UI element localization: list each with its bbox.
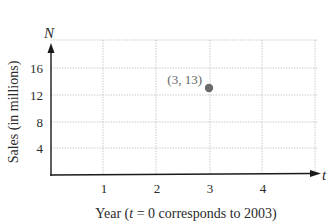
x-tick: 4 — [260, 181, 267, 196]
y-tick: 8 — [37, 115, 44, 130]
point-annotation: (3, 13) — [167, 72, 202, 87]
y-tick: 12 — [30, 88, 43, 103]
x-tick-labels: 1 2 3 4 — [101, 181, 267, 196]
x-axis-variable: t — [322, 167, 327, 183]
x-tick: 1 — [101, 181, 108, 196]
chart-canvas: N t 16 12 8 4 1 2 3 4 Sales (in millions… — [0, 0, 333, 224]
grid — [51, 40, 318, 175]
x-axis-arrow-icon — [310, 170, 321, 177]
x-tick: 3 — [207, 181, 214, 196]
x-axis-label-prefix: Year ( — [95, 206, 129, 222]
y-tick: 4 — [37, 141, 44, 156]
x-axis-label-suffix: = 0 corresponds to 2003) — [133, 206, 277, 222]
x-tick: 2 — [154, 181, 161, 196]
y-tick: 16 — [30, 61, 44, 76]
axes — [48, 43, 322, 177]
y-axis-variable: N — [43, 25, 55, 41]
y-axis-arrow-icon — [48, 43, 55, 53]
y-axis-label: Sales (in millions) — [6, 60, 22, 163]
data-point — [205, 84, 213, 92]
x-axis-label: Year (t = 0 corresponds to 2003) — [95, 206, 277, 222]
y-tick-labels: 16 12 8 4 — [30, 61, 44, 156]
